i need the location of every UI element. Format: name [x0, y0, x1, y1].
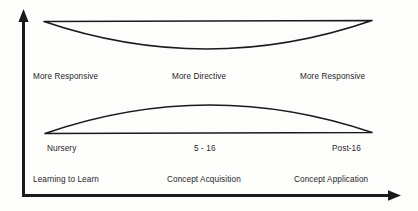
label-stage-5-16: 5 - 16 [194, 145, 216, 153]
x-axis-arrowhead [388, 190, 401, 200]
upper-crescent-shape [44, 21, 372, 50]
label-concept-acquisition: Concept Acquisition [167, 176, 241, 184]
label-stage-nursery: Nursery [47, 145, 76, 153]
label-stage-post-16: Post-16 [332, 145, 361, 153]
label-more-responsive-right: More Responsive [300, 73, 365, 81]
y-axis-arrowhead [18, 9, 28, 22]
label-learning-to-learn: Learning to Learn [33, 176, 99, 184]
label-more-directive: More Directive [172, 73, 226, 81]
label-concept-application: Concept Application [294, 176, 368, 184]
diagram-canvas: More Responsive More Directive More Resp… [0, 0, 418, 211]
lower-lens-shape [45, 105, 372, 134]
label-more-responsive-left: More Responsive [33, 73, 98, 81]
